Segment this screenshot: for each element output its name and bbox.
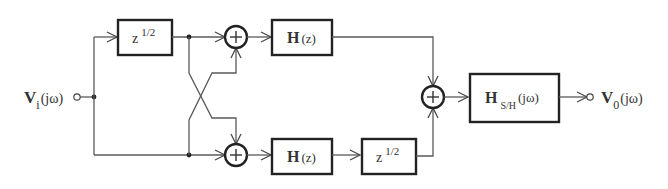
svg-text:H(z): H(z) bbox=[287, 29, 316, 46]
input-label: Vi(jω) bbox=[24, 88, 63, 112]
bottom-delay-block: z1/2 bbox=[362, 139, 416, 174]
cross-wire-bottom-to-top bbox=[189, 48, 236, 155]
bottom-filter-block: H(z) bbox=[272, 139, 332, 174]
wire-bottom-to-output-adder bbox=[416, 108, 433, 156]
cross-wire-top-to-bottom bbox=[189, 37, 236, 144]
top-delay-block: z1/2 bbox=[118, 20, 172, 55]
input-terminal bbox=[74, 94, 80, 100]
top-adder bbox=[225, 26, 247, 48]
output-adder bbox=[422, 86, 444, 108]
wire-top-to-output-adder bbox=[332, 37, 433, 86]
output-terminal bbox=[587, 94, 593, 100]
svg-text:H(z): H(z) bbox=[287, 148, 316, 165]
block-diagram: Vi(jω) z1/2 H(z) bbox=[0, 0, 668, 189]
sample-hold-block: HS/H(jω) bbox=[470, 74, 559, 122]
output-label: V0(jω) bbox=[601, 88, 643, 112]
bottom-adder bbox=[225, 144, 247, 166]
top-filter-block: H(z) bbox=[272, 20, 332, 55]
